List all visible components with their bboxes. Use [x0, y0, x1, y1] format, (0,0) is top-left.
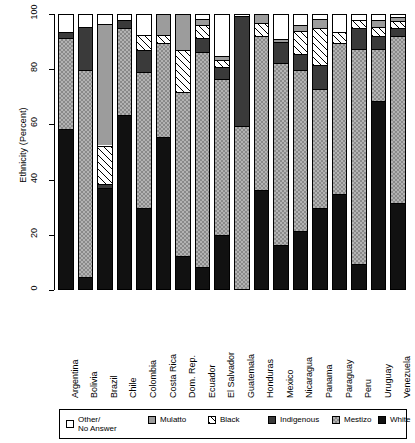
bar-segment-mulatto: [176, 14, 190, 50]
bar-segment-mestizo: [294, 70, 308, 231]
legend-label: Mestizo: [344, 415, 372, 424]
bar-venezuela[interactable]: [390, 14, 406, 290]
x-axis-label-ecuador: Ecuador: [207, 364, 217, 398]
bar-segment-white: [391, 203, 405, 289]
x-axis-label-honduras: Honduras: [265, 359, 275, 398]
legend-label: White: [390, 415, 410, 424]
legend-item-other-no-answer[interactable]: Other/No Answer: [66, 415, 117, 433]
bar-segment-mulatto: [215, 56, 229, 60]
bar-bolivia[interactable]: [78, 14, 94, 290]
bar-segment-black: [98, 146, 112, 185]
x-axis-label-panama: Panama: [324, 364, 334, 398]
bar-nicaragua[interactable]: [293, 14, 309, 290]
bar-uruguay[interactable]: [371, 14, 387, 290]
bar-segment-mestizo: [79, 70, 93, 277]
bar-segment-white: [372, 101, 386, 289]
bar-segment-white: [294, 231, 308, 289]
bar-segment-white: [196, 267, 210, 289]
bar-segment-indigenous: [235, 16, 249, 126]
bar-segment-white: [313, 208, 327, 289]
bar-segment-mulatto: [391, 17, 405, 21]
legend-swatch-icon: [66, 420, 74, 428]
x-axis-label-colombia: Colombia: [148, 360, 158, 398]
y-axis-tick: [49, 290, 54, 291]
legend-item-black[interactable]: Black: [208, 415, 240, 424]
bar-segment-black: [196, 25, 210, 37]
bar-colombia[interactable]: [136, 14, 152, 290]
y-axis-tick: [49, 124, 54, 125]
bar-chile[interactable]: [117, 14, 133, 290]
legend-label-line1: White: [390, 415, 410, 424]
bar-segment-mestizo: [215, 79, 229, 235]
bar-segment-other-no-answer: [79, 14, 93, 27]
bar-segment-white: [176, 256, 190, 289]
bar-segment-other-no-answer: [215, 14, 229, 56]
x-axis-label-paraguay: Paraguay: [344, 359, 354, 398]
bar-segment-indigenous: [118, 20, 132, 28]
bar-segment-indigenous: [98, 184, 112, 188]
legend-swatch-icon: [268, 416, 276, 424]
bar-segment-indigenous: [59, 32, 73, 38]
bar-segment-indigenous: [294, 54, 308, 69]
bar-segment-indigenous: [372, 36, 386, 48]
bar-segment-indigenous: [391, 28, 405, 36]
bar-segment-white: [215, 235, 229, 289]
bar-segment-mestizo: [352, 49, 366, 264]
bar-segment-indigenous: [79, 27, 93, 70]
bar-segment-other-no-answer: [118, 14, 132, 20]
bar-mexico[interactable]: [273, 14, 289, 290]
bar-segment-mulatto: [255, 14, 269, 23]
bar-dom-rep[interactable]: [175, 14, 191, 290]
x-axis-label-chile: Chile: [128, 377, 138, 398]
bar-segment-white: [255, 190, 269, 289]
x-axis-labels: ArgentinaBoliviaBrazilChileColombiaCosta…: [56, 292, 408, 402]
legend-swatch-icon: [332, 416, 340, 424]
legend-item-mestizo[interactable]: Mestizo: [332, 415, 372, 424]
x-axis-label-el-salvador: El Salvador: [226, 352, 236, 398]
bar-panama[interactable]: [312, 14, 328, 290]
bar-segment-mulatto: [294, 25, 308, 31]
bar-segment-other-no-answer: [391, 14, 405, 17]
bar-segment-mulatto: [196, 19, 210, 26]
legend-label: Indigenous: [280, 415, 319, 424]
bar-segment-indigenous: [352, 28, 366, 49]
bar-peru[interactable]: [351, 14, 367, 290]
bar-costa-rica[interactable]: [156, 14, 172, 290]
y-axis-tick-label: 20: [29, 221, 39, 245]
x-axis-label-bolivia: Bolivia: [89, 371, 99, 398]
bar-segment-white: [333, 194, 347, 289]
bar-segment-mestizo: [118, 28, 132, 115]
bar-segment-other-no-answer: [352, 14, 366, 20]
bar-segment-indigenous: [196, 38, 210, 52]
y-axis-tick: [49, 14, 54, 15]
y-axis-tick-label: 40: [29, 166, 39, 190]
bar-segment-black: [313, 28, 327, 65]
bar-segment-mestizo: [391, 36, 405, 203]
bar-paraguay[interactable]: [332, 14, 348, 290]
bar-el-salvador[interactable]: [214, 14, 230, 290]
y-axis-tick-label: 0: [29, 276, 39, 300]
bar-segment-white: [137, 208, 151, 289]
bar-segment-white: [157, 137, 171, 289]
bar-segment-white: [352, 264, 366, 289]
bar-argentina[interactable]: [58, 14, 74, 290]
legend-item-mulatto[interactable]: Mulatto: [148, 415, 186, 424]
legend-label: Other/No Answer: [78, 415, 117, 433]
bar-guatemala[interactable]: [234, 14, 250, 290]
bar-segment-black: [333, 32, 347, 43]
bar-segment-indigenous: [313, 65, 327, 88]
bar-segment-mestizo: [176, 92, 190, 256]
bar-segment-indigenous: [137, 50, 151, 72]
legend-item-white[interactable]: White: [378, 415, 410, 424]
legend-item-indigenous[interactable]: Indigenous: [268, 415, 319, 424]
bar-brazil[interactable]: [97, 14, 113, 290]
bar-segment-mulatto: [98, 24, 112, 145]
bar-honduras[interactable]: [254, 14, 270, 290]
bar-ecuador[interactable]: [195, 14, 211, 290]
bar-segment-black: [372, 27, 386, 37]
bar-segment-other-no-answer: [98, 14, 112, 24]
bar-segment-other-no-answer: [274, 14, 288, 39]
bar-segment-other-no-answer: [196, 14, 210, 19]
bar-segment-black: [176, 50, 190, 91]
bar-segment-mestizo: [313, 89, 327, 208]
